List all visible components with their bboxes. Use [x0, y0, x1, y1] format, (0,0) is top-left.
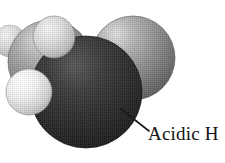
label-acidic-h: Acidic H	[148, 124, 219, 144]
molecular-model-figure: Acidic H	[0, 0, 225, 163]
atom-hydrogen-top-left	[33, 16, 75, 58]
atom-hydrogen-lower-left	[6, 69, 52, 115]
